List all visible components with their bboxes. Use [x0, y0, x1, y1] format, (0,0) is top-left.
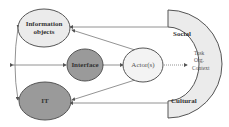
actors-label: Actor(s): [131, 61, 155, 69]
information-objects-label-1: Information: [26, 20, 63, 28]
task-label: Task: [194, 50, 205, 56]
org-label: Org.: [194, 57, 204, 63]
it-label: IT: [41, 97, 49, 105]
context-label: Context: [192, 65, 210, 71]
information-objects-label-2: objects: [34, 28, 55, 36]
interface-label: Interface: [71, 61, 98, 69]
diagram-canvas: Information objects Interface Actor(s) I…: [0, 0, 229, 127]
cultural-label: Cultural: [171, 97, 197, 105]
social-label: Social: [173, 30, 191, 38]
